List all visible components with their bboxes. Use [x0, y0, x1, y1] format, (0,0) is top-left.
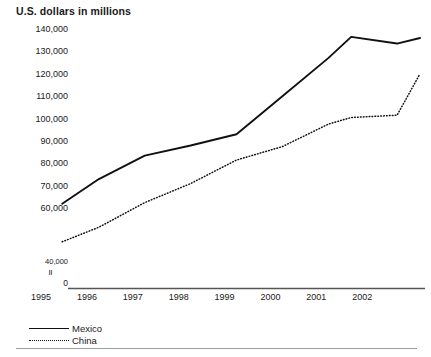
y-tick-label: 120,000 [20, 69, 68, 79]
legend-line-swatch-solid-icon [29, 323, 69, 333]
y-tick-label: 100,000 [20, 114, 68, 124]
line-chart-figure: U.S. dollars in millions 140,000130,0001… [0, 0, 431, 357]
x-tick-label: 1997 [123, 292, 143, 303]
x-tick-label: 2001 [306, 292, 326, 303]
x-tick-label: 2002 [352, 292, 372, 303]
y-tick-label: 110,000 [20, 91, 68, 101]
y-axis-tick-labels: 140,000130,000120,000110,000100,00090,00… [20, 0, 68, 300]
legend-item-mexico: Mexico [29, 322, 229, 334]
x-tick-label: 1996 [77, 292, 97, 303]
y-tick-label: 60,000 [20, 203, 68, 213]
x-axis-tick-labels: 19951996199719981999200020012002 [0, 292, 431, 306]
axis-break-mark-icon: II [49, 269, 52, 277]
y-axis-zero-label: 0 [20, 279, 68, 288]
series-line-mexico [62, 37, 420, 204]
series-line-china [62, 74, 420, 242]
x-tick-label: 2000 [260, 292, 280, 303]
legend-label-china: China [69, 335, 97, 346]
y-tick-label: 70,000 [20, 181, 68, 191]
y-tick-label: 130,000 [20, 46, 68, 56]
chart-legend: Mexico China [29, 322, 229, 346]
legend-label-mexico: Mexico [69, 323, 102, 334]
plot-area: 140,000130,000120,000110,000100,00090,00… [0, 0, 431, 300]
y-tick-label: 90,000 [20, 136, 68, 146]
x-tick-label: 1998 [169, 292, 189, 303]
y-tick-label: 80,000 [20, 158, 68, 168]
y-axis-break-label: 40,000 [20, 258, 68, 266]
y-tick-label: 140,000 [20, 24, 68, 34]
data-series-layer [62, 37, 420, 242]
footer-divider [16, 348, 417, 349]
legend-line-swatch-dotted-icon [29, 335, 69, 345]
x-tick-label: 1995 [31, 292, 51, 303]
legend-item-china: China [29, 334, 229, 346]
x-tick-label: 1999 [215, 292, 235, 303]
